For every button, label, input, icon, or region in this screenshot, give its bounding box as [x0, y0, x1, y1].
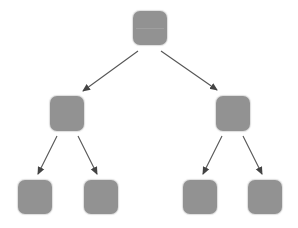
tree-node-mid-left	[50, 96, 84, 131]
tree-node-leaf-2	[84, 180, 118, 214]
tree-node-leaf-4	[248, 180, 282, 214]
tree-node-leaf-3	[183, 180, 217, 214]
node-divider-line	[136, 28, 164, 29]
tree-node-mid-right	[216, 96, 250, 131]
tree-node-leaf-1	[18, 180, 52, 214]
edge-arrow-root-to-mid-left	[83, 51, 138, 91]
edge-arrow-mid-right-to-leaf-4	[243, 136, 262, 174]
edge-arrow-root-to-mid-right	[161, 51, 217, 90]
edge-arrow-mid-right-to-leaf-3	[203, 136, 222, 174]
edge-arrow-mid-left-to-leaf-2	[78, 136, 97, 174]
tree-diagram	[0, 0, 298, 228]
tree-node-root	[133, 11, 167, 45]
edge-arrow-mid-left-to-leaf-1	[38, 136, 57, 174]
